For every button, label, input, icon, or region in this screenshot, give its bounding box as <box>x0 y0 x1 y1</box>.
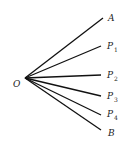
ray-label-P3-letter: P <box>106 91 114 101</box>
ray-OP1 <box>25 46 101 78</box>
ray-label-P2-subscript: 2 <box>114 75 118 82</box>
ray-label-P2-letter: P <box>106 70 114 80</box>
ray-label-P4-letter: P <box>106 109 114 119</box>
ray-label-B: B <box>107 128 115 138</box>
ray-label-P3: P 3 <box>106 91 118 103</box>
rays-group <box>25 18 103 130</box>
ray-OP3 <box>25 78 101 96</box>
ray-label-P4: P 4 <box>106 109 118 121</box>
ray-OB <box>25 78 101 130</box>
ray-OP4 <box>25 78 101 115</box>
ray-label-P4-subscript: 4 <box>114 114 118 121</box>
ray-diagram: O A P 1 P 2 P 3 P 4 B <box>0 0 126 144</box>
ray-label-P3-subscript: 3 <box>114 96 118 103</box>
ray-OA <box>25 18 103 78</box>
ray-label-P1: P 1 <box>106 41 118 53</box>
ray-OP2 <box>25 75 101 78</box>
vertex-label-O: O <box>13 79 21 89</box>
ray-label-A: A <box>107 13 115 23</box>
ray-label-P1-letter: P <box>106 41 114 51</box>
ray-label-P2: P 2 <box>106 70 118 82</box>
ray-label-P1-subscript: 1 <box>114 46 118 53</box>
